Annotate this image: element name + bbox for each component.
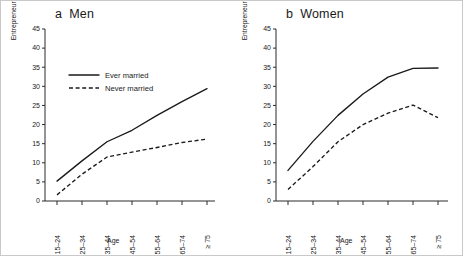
series-never-married-women (288, 105, 438, 189)
y-tick-label: 45 (32, 25, 40, 32)
y-tick-label: 20 (32, 121, 40, 128)
legend-men: Ever married Never married (69, 71, 153, 93)
x-tick-labels-women: 15–2425–3435–4445–5455–6465–74≥ 75 (285, 201, 442, 254)
y-tick-label: 0 (36, 197, 40, 204)
x-tick-label: 15–24 (285, 235, 292, 255)
x-tick-label: 25–34 (310, 235, 317, 255)
y-tick-label: 5 (267, 178, 271, 185)
y-tick-label: 15 (263, 140, 271, 147)
series-ever-married-men (57, 89, 207, 181)
series-ever-married-women (288, 68, 438, 170)
y-tick-label: 40 (32, 44, 40, 51)
y-tick-label: 10 (263, 159, 271, 166)
x-tick-label: 55–64 (154, 235, 161, 255)
panel-men: aMen Entrepreneur rate (%) Age 051015202… (1, 1, 232, 255)
legend-label-ever-married: Ever married (105, 71, 148, 80)
y-tick-label: 30 (32, 83, 40, 90)
y-tick-label: 45 (263, 25, 271, 32)
y-tick-label: 30 (263, 83, 271, 90)
x-tick-label: 15–24 (54, 235, 61, 255)
x-tick-label: 55–64 (385, 235, 392, 255)
y-tick-label: 25 (32, 102, 40, 109)
x-tick-label: 25–34 (79, 235, 86, 255)
figure-container: aMen Entrepreneur rate (%) Age 051015202… (0, 0, 463, 256)
y-tick-label: 20 (263, 121, 271, 128)
panel-women: bWomen Entrepreneur rate (%) Age 0510152… (232, 1, 463, 255)
series-never-married-men (57, 139, 207, 195)
plot-men: 051015202530354045 15–2425–3435–4445–545… (1, 1, 232, 255)
x-tick-label: 35–44 (335, 235, 342, 255)
x-tick-label: 35–44 (104, 235, 111, 255)
y-tick-label: 15 (32, 140, 40, 147)
y-tick-label: 0 (267, 197, 271, 204)
y-tick-label: 10 (32, 159, 40, 166)
x-tick-label: 45–54 (360, 235, 367, 255)
y-tick-label: 35 (32, 64, 40, 71)
y-tick-labels-women: 051015202530354045 (263, 25, 276, 204)
legend-label-never-married: Never married (105, 84, 153, 93)
plot-women: 051015202530354045 15–2425–3435–4445–545… (232, 1, 463, 255)
x-tick-label: 45–54 (129, 235, 136, 255)
y-tick-label: 5 (36, 178, 40, 185)
x-tick-labels-men: 15–2425–3435–4445–5455–6465–74≥ 75 (54, 201, 211, 254)
y-tick-labels-men: 051015202530354045 (32, 25, 45, 204)
x-tick-label: ≥ 75 (435, 235, 442, 249)
x-tick-label: ≥ 75 (204, 235, 211, 249)
x-tick-label: 65–74 (410, 235, 417, 255)
y-tick-label: 25 (263, 102, 271, 109)
x-tick-label: 65–74 (179, 235, 186, 255)
y-tick-label: 35 (263, 64, 271, 71)
y-tick-label: 40 (263, 44, 271, 51)
